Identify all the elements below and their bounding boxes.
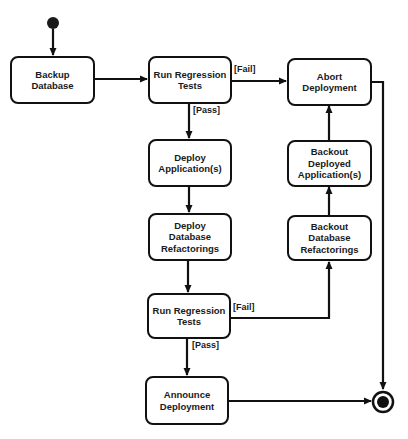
- guard-pass-2: [Pass]: [192, 340, 219, 350]
- edge-abort-to-end: [371, 82, 383, 389]
- node-deploy-database-refactorings: Deploy Database Refactorings: [148, 213, 232, 261]
- initial-state-icon: [47, 17, 59, 29]
- guard-pass-1: [Pass]: [193, 105, 220, 115]
- guard-fail-1: [Fail]: [234, 64, 256, 74]
- node-backout-database-refactorings: Backout Database Refactorings: [287, 215, 372, 261]
- node-run-regression-tests-2: Run Regression Tests: [147, 293, 231, 339]
- node-backup-database: Backup Database: [10, 56, 95, 104]
- node-deploy-applications: Deploy Application(s): [148, 139, 232, 187]
- node-run-regression-tests-1: Run Regression Tests: [148, 56, 232, 104]
- node-backout-deployed-applications: Backout Deployed Application(s): [287, 140, 372, 187]
- guard-fail-2: [Fail]: [233, 302, 255, 312]
- node-abort-deployment: Abort Deployment: [287, 58, 372, 106]
- node-announce-deployment: Announce Deployment: [145, 376, 229, 425]
